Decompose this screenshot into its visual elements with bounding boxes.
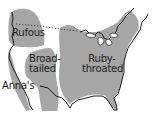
annas-label: Anna's (2, 81, 34, 91)
ruby-throated-label: Ruby- throated (82, 54, 122, 74)
rufous-label: Rufous (12, 28, 45, 38)
broad-tailed-label: Broad- tailed (29, 54, 55, 74)
broad-tailed-label-line2: tailed (29, 64, 55, 74)
ruby-throated-label-line2: throated (82, 64, 122, 74)
range-map (0, 0, 154, 116)
